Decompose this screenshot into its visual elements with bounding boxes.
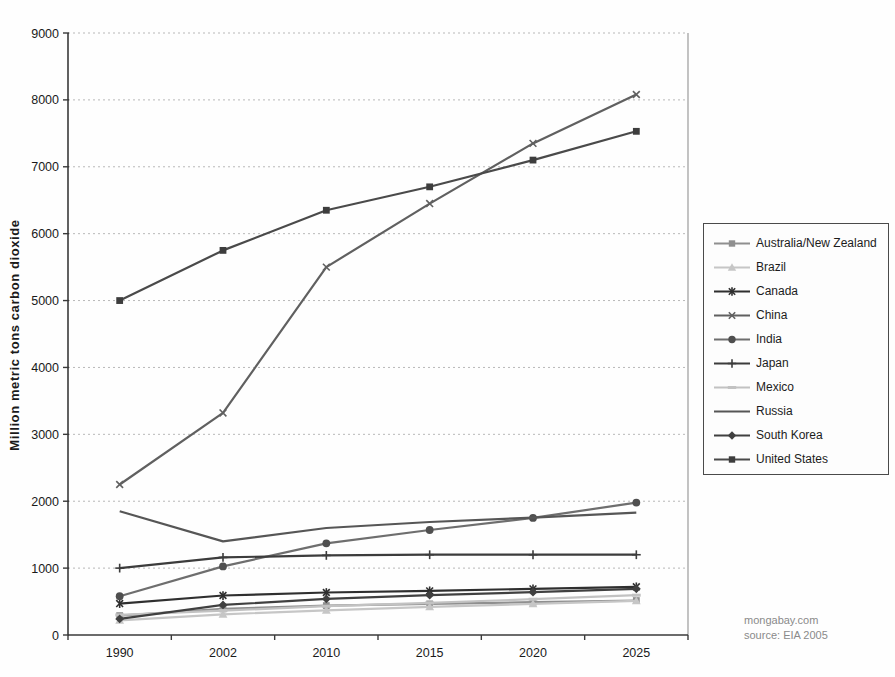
y-axis-ticks: 0100020003000400050006000700080009000 — [31, 27, 69, 643]
legend-item-india: India — [713, 327, 884, 351]
y-tick-label: 2000 — [31, 495, 59, 509]
legend-label: Mexico — [756, 380, 794, 394]
legend-label: Russia — [756, 404, 793, 418]
legend-label: India — [756, 332, 782, 346]
chart-legend: Australia/New ZealandBrazilCanadaChinaIn… — [703, 223, 889, 475]
y-tick-label: 4000 — [31, 361, 59, 375]
source-credit: mongabay.com source: EIA 2005 — [744, 613, 828, 643]
legend-item-russia: Russia — [713, 399, 884, 423]
legend-label: Brazil — [756, 260, 786, 274]
legend-item-brazil: Brazil — [713, 255, 884, 279]
legend-item-canada: Canada — [713, 279, 884, 303]
legend-marker-sample — [713, 453, 751, 466]
legend-label: China — [756, 308, 787, 322]
legend-label: United States — [756, 452, 828, 466]
x-tick-label: 2010 — [312, 646, 340, 660]
y-tick-label: 3000 — [31, 428, 59, 442]
x-tick-label: 2015 — [416, 646, 444, 660]
x-tick-label: 2025 — [622, 646, 650, 660]
legend-label: Canada — [756, 284, 798, 298]
x-tick-label: 1990 — [106, 646, 134, 660]
legend-marker-sample — [713, 261, 751, 274]
legend-marker-sample — [713, 381, 751, 394]
legend-item-australia-new-zealand: Australia/New Zealand — [713, 231, 884, 255]
x-tick-label: 2002 — [209, 646, 237, 660]
x-tick-label: 2020 — [519, 646, 547, 660]
axes — [68, 33, 688, 635]
watermark-source: source: EIA 2005 — [744, 628, 828, 643]
y-axis-title: Million metric tons carbon dioxide — [7, 219, 22, 450]
legend-label: South Korea — [756, 428, 823, 442]
y-tick-label: 1000 — [31, 562, 59, 576]
legend-item-mexico: Mexico — [713, 375, 884, 399]
x-axis-ticks: 199020022010201520202025 — [68, 635, 688, 660]
y-tick-label: 6000 — [31, 227, 59, 241]
legend-label: Australia/New Zealand — [756, 236, 877, 250]
legend-marker-sample — [713, 237, 751, 250]
series-japan — [115, 550, 640, 572]
legend-marker-sample — [713, 333, 751, 346]
watermark-site: mongabay.com — [744, 613, 828, 628]
series-china — [116, 91, 639, 488]
legend-marker-sample — [713, 309, 751, 322]
legend-marker-sample — [713, 429, 751, 442]
series-india — [116, 499, 640, 600]
legend-item-south-korea: South Korea — [713, 423, 884, 447]
y-tick-label: 9000 — [31, 27, 59, 41]
co2-emissions-chart-page: 0100020003000400050006000700080009000199… — [0, 0, 895, 677]
legend-item-china: China — [713, 303, 884, 327]
legend-marker-sample — [713, 285, 751, 298]
y-tick-label: 7000 — [31, 160, 59, 174]
legend-marker-sample — [713, 405, 751, 418]
y-tick-label: 5000 — [31, 294, 59, 308]
legend-item-united-states: United States — [713, 447, 884, 471]
y-tick-label: 8000 — [31, 93, 59, 107]
legend-item-japan: Japan — [713, 351, 884, 375]
series-united-states — [116, 128, 639, 304]
y-tick-label: 0 — [52, 629, 59, 643]
legend-label: Japan — [756, 356, 789, 370]
legend-marker-sample — [713, 357, 751, 370]
